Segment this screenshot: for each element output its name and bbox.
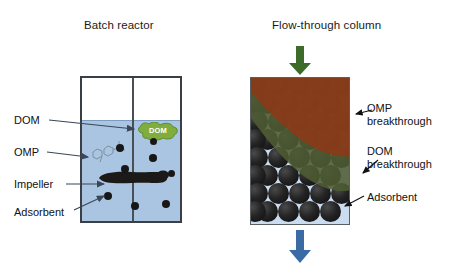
column-leader-lines [0,0,452,274]
dom-blob-label: DOM [136,126,180,135]
figure-root: Batch reactor Flow-through column DOM [0,0,452,274]
